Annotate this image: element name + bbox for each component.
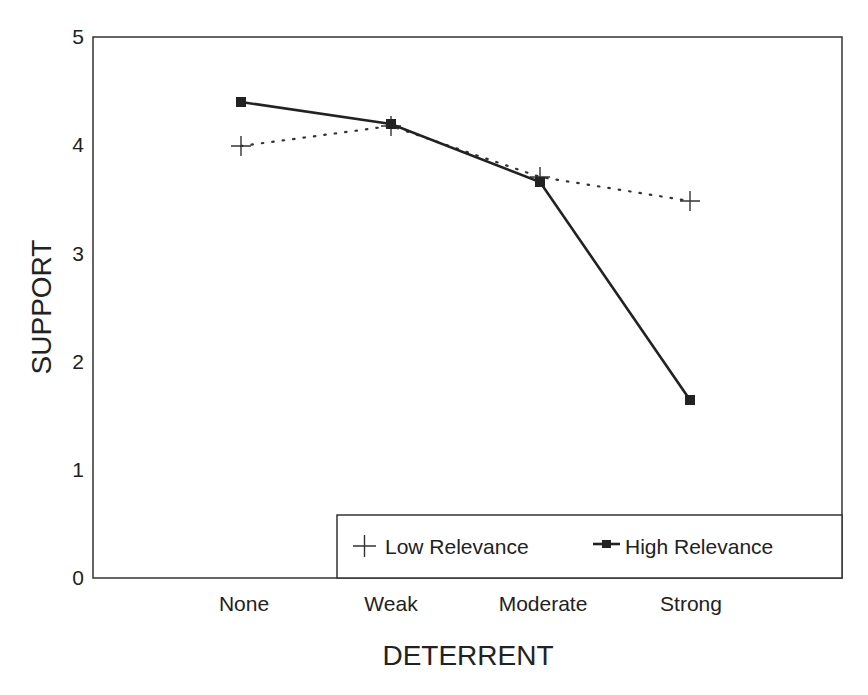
- y-tick-5: 5: [72, 25, 84, 48]
- series-high-relevance: [236, 97, 695, 405]
- high-relevance-line: [241, 102, 690, 400]
- square-icon: [236, 97, 246, 107]
- y-tick-2: 2: [72, 350, 84, 373]
- y-axis-title: SUPPORT: [26, 240, 57, 375]
- plot-frame: [93, 37, 842, 578]
- x-axis-title: DETERRENT: [382, 640, 553, 671]
- square-icon: [386, 119, 396, 129]
- square-icon: [685, 395, 695, 405]
- line-chart: 0 1 2 3 4 5 SUPPORT None Weak Moderate S…: [0, 0, 868, 695]
- y-tick-1: 1: [72, 458, 84, 481]
- square-icon: [535, 177, 545, 187]
- plus-icon: [680, 191, 700, 211]
- y-axis: 0 1 2 3 4 5: [72, 25, 84, 589]
- x-tick-weak: Weak: [364, 592, 418, 615]
- low-relevance-markers: [231, 116, 700, 211]
- legend: Low Relevance High Relevance: [337, 515, 842, 578]
- x-axis: None Weak Moderate Strong: [219, 592, 722, 615]
- legend-label-high-relevance: High Relevance: [625, 535, 773, 558]
- low-relevance-line: [241, 126, 690, 201]
- legend-label-low-relevance: Low Relevance: [385, 535, 529, 558]
- y-tick-3: 3: [72, 242, 84, 265]
- series-low-relevance: [231, 116, 700, 211]
- y-tick-0: 0: [72, 566, 84, 589]
- square-icon: [602, 540, 611, 548]
- high-relevance-markers: [236, 97, 695, 405]
- x-tick-moderate: Moderate: [499, 592, 588, 615]
- plus-icon: [231, 136, 251, 156]
- y-tick-4: 4: [72, 133, 84, 156]
- x-tick-none: None: [219, 592, 269, 615]
- x-tick-strong: Strong: [660, 592, 722, 615]
